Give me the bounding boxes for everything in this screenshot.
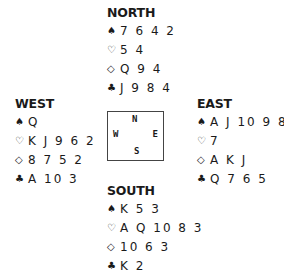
east-hand: EAST ♠A J 10 9 8 ♡7 ◇A K J ♣Q 7 6 5 — [197, 95, 284, 188]
diamond-icon: ◇ — [107, 237, 120, 256]
hand-title: EAST — [197, 95, 284, 112]
spades-holding: ♠Q — [15, 112, 96, 131]
compass-box: N W E S — [107, 111, 164, 161]
spade-icon: ♠ — [197, 112, 210, 131]
heart-icon: ♡ — [107, 40, 120, 59]
west-hand: WEST ♠Q ♡K J 9 6 2 ◇8 7 5 2 ♣A 10 3 — [15, 95, 96, 188]
diamond-icon: ◇ — [107, 59, 120, 78]
spade-icon: ♠ — [107, 199, 120, 218]
north-hand: NORTH ♠7 6 4 2 ♡5 4 ◇Q 9 4 ♣J 9 8 4 — [107, 4, 176, 97]
club-icon: ♣ — [15, 169, 28, 188]
diamond-icon: ◇ — [197, 150, 210, 169]
clubs-holding: ♣Q 7 6 5 — [197, 169, 284, 188]
clubs-holding: ♣J 9 8 4 — [107, 78, 176, 97]
spade-icon: ♠ — [107, 21, 120, 40]
heart-icon: ♡ — [15, 131, 28, 150]
club-icon: ♣ — [107, 256, 120, 275]
spades-holding: ♠K 5 3 — [107, 199, 203, 218]
south-hand: SOUTH ♠K 5 3 ♡A Q 10 8 3 ◇10 6 3 ♣K 2 — [107, 182, 203, 275]
club-icon: ♣ — [107, 78, 120, 97]
hearts-holding: ♡7 — [197, 131, 284, 150]
heart-icon: ♡ — [197, 131, 210, 150]
clubs-holding: ♣A 10 3 — [15, 169, 96, 188]
spade-icon: ♠ — [15, 112, 28, 131]
hearts-holding: ♡5 4 — [107, 40, 176, 59]
clubs-holding: ♣K 2 — [107, 256, 203, 275]
spades-holding: ♠7 6 4 2 — [107, 21, 176, 40]
compass-north: N — [132, 114, 137, 124]
diamonds-holding: ◇8 7 5 2 — [15, 150, 96, 169]
diamonds-holding: ◇A K J — [197, 150, 284, 169]
compass-west: W — [113, 129, 118, 139]
spades-holding: ♠A J 10 9 8 — [197, 112, 284, 131]
diamonds-holding: ◇Q 9 4 — [107, 59, 176, 78]
compass-south: S — [134, 146, 139, 156]
diamond-icon: ◇ — [15, 150, 28, 169]
hearts-holding: ♡K J 9 6 2 — [15, 131, 96, 150]
hand-title: SOUTH — [107, 182, 203, 199]
hand-title: NORTH — [107, 4, 176, 21]
hand-title: WEST — [15, 95, 96, 112]
diamonds-holding: ◇10 6 3 — [107, 237, 203, 256]
hearts-holding: ♡A Q 10 8 3 — [107, 218, 203, 237]
compass-east: E — [153, 129, 158, 139]
heart-icon: ♡ — [107, 218, 120, 237]
